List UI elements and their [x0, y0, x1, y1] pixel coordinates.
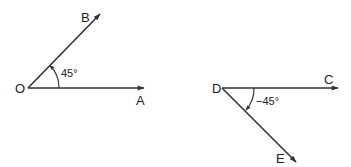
- vertex-label-o: O: [15, 81, 25, 96]
- ray-label-b: B: [81, 10, 90, 25]
- ray-label-c: C: [324, 72, 333, 87]
- ray-label-a: A: [136, 93, 145, 108]
- negative-angle-diagram: D C E −45°: [212, 72, 338, 166]
- angle-diagrams: O A B 45° D C E −45°: [0, 0, 351, 167]
- ray-label-e: E: [276, 151, 285, 166]
- vertex-label-d: D: [212, 81, 221, 96]
- angle-label-45: 45°: [61, 67, 78, 79]
- positive-angle-diagram: O A B 45°: [15, 10, 145, 108]
- angle-arc-45: [50, 66, 59, 89]
- angle-arc-neg45: [246, 88, 254, 110]
- angle-label-neg45: −45°: [256, 95, 279, 107]
